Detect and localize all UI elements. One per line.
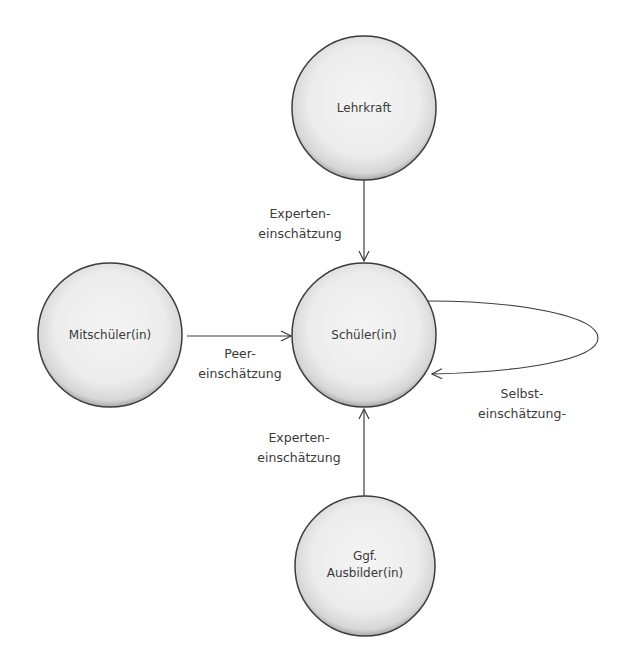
edge-label-line-1: Experten-: [269, 206, 330, 221]
edge-label-line-2: einschätzung-: [478, 406, 566, 421]
node-label-line-1: Ggf.: [353, 549, 377, 563]
node-mitschueler: Mitschüler(in): [38, 263, 182, 407]
self-loop-arrow-icon: [428, 301, 598, 374]
edge-label-line-1: Experten-: [268, 430, 329, 445]
node-lehrkraft: Lehrkraft: [292, 36, 436, 180]
edge-label-line-2: einschätzung: [258, 226, 341, 241]
node-label: Mitschüler(in): [69, 328, 151, 342]
edge-label-line-2: einschätzung: [198, 366, 281, 381]
edge-label-mitschueler: Peer- einschätzung: [198, 346, 281, 381]
edge-label-line-1: Peer-: [224, 346, 255, 361]
node-label: Schüler(in): [331, 328, 396, 342]
edge-label-self: Selbst- einschätzung-: [478, 386, 566, 421]
node-label: Lehrkraft: [337, 101, 392, 115]
edge-label-line-2: einschätzung: [257, 450, 340, 465]
node-schueler: Schüler(in): [292, 263, 436, 407]
edge-label-line-1: Selbst-: [501, 386, 544, 401]
node-label-line-2: Ausbilder(in): [327, 566, 404, 580]
node-ausbilder: Ggf. Ausbilder(in): [295, 496, 435, 636]
edge-schueler-self-loop: [428, 301, 598, 374]
edge-label-ausbilder: Experten- einschätzung: [257, 430, 340, 465]
edge-label-lehrkraft: Experten- einschätzung: [258, 206, 341, 241]
